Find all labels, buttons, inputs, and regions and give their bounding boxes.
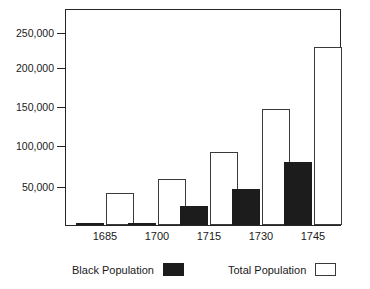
bar-black-population-1715 <box>180 206 208 225</box>
bar-total-population-1685 <box>106 193 134 225</box>
bar-black-population-1685 <box>76 223 104 225</box>
legend-label-total-population: Total Population <box>228 264 306 276</box>
black-filled-swatch-icon <box>163 263 184 276</box>
white-outlined-swatch-icon <box>315 263 336 276</box>
y-axis-label-250000: 250,000 <box>0 27 54 39</box>
x-axis-label-1700: 1700 <box>127 230 187 242</box>
x-axis-label-1685: 1685 <box>75 230 135 242</box>
bar-black-population-1700 <box>128 223 156 225</box>
plot-area <box>65 9 341 226</box>
legend-item-black-population: Black Population <box>72 263 184 276</box>
bar-black-population-1745 <box>284 162 312 225</box>
y-axis-label-150000: 150,000 <box>0 101 54 113</box>
bar-black-population-1730 <box>232 189 260 225</box>
x-axis-label-1745: 1745 <box>283 230 343 242</box>
y-axis-label-200000: 200,000 <box>0 62 54 74</box>
bar-total-population-1745 <box>314 47 342 225</box>
x-axis-label-1715: 1715 <box>179 230 239 242</box>
chart-legend: Black Population Total Population <box>0 263 370 285</box>
legend-item-total-population: Total Population <box>228 263 336 276</box>
y-axis-label-50000: 50,000 <box>0 181 54 193</box>
y-axis-label-100000: 100,000 <box>0 140 54 152</box>
legend-label-black-population: Black Population <box>72 264 154 276</box>
x-axis-label-1730: 1730 <box>231 230 291 242</box>
bar-chart: 250,000 200,000 150,000 100,000 50,000 1… <box>0 0 370 289</box>
